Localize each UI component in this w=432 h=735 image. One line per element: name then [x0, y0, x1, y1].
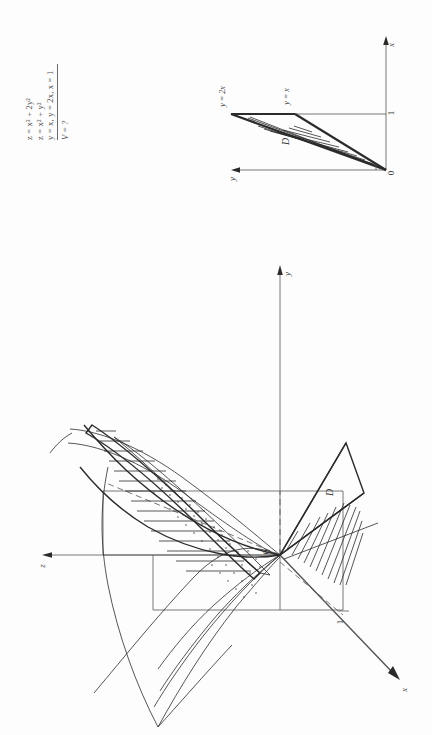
space-construction-lines [280, 493, 378, 559]
plane-diagram: x y 0 1 y = 2x y = x D [190, 18, 425, 213]
space-axis-x [280, 555, 400, 680]
space-region-label: D [324, 489, 335, 496]
plane-axis-x-label: x [386, 43, 396, 47]
plane-axis-y-label: y [227, 177, 237, 181]
space-paraboloid-outlines [68, 429, 280, 727]
space-origin-label: 0 [261, 550, 271, 555]
plane-tick-label-1: 1 [386, 111, 396, 116]
equation-answer: V = ? [60, 20, 70, 140]
plane-axis-x [383, 36, 389, 170]
space-diagram: y z x 0 1 D [8, 255, 432, 733]
space-region-D [280, 443, 364, 585]
plane-region-label: D [280, 138, 291, 145]
space-parabola-tails [50, 433, 232, 727]
space-band-hatching [96, 431, 251, 571]
plane-diagram-svg [190, 18, 425, 213]
equation-block: z = x² + 2y² z = x² + y² y = x, y = 2x, … [24, 20, 84, 140]
plane-axis-y [231, 167, 386, 173]
space-axis-z-label: z [37, 564, 47, 568]
plane-curve-lower-label: y = x [282, 88, 291, 105]
plane-region-D [231, 114, 386, 170]
plane-origin-label: 0 [386, 171, 396, 176]
space-axis-y-label: y [282, 272, 292, 276]
figure-page: z = x² + 2y² z = x² + y² y = x, y = 2x, … [0, 0, 432, 735]
space-diagram-svg [8, 255, 432, 733]
equation-line-3: y = x, y = 2x, x = 1 [45, 20, 56, 140]
equation-line-2: z = x² + y² [35, 20, 46, 140]
space-axis-x-label: x [399, 688, 409, 692]
plane-region-hatching [248, 117, 386, 170]
space-tick-label-1: 1 [335, 620, 345, 625]
plane-curve-upper-label: y = 2x [218, 86, 227, 107]
equation-line-1: z = x² + 2y² [24, 20, 35, 140]
equation-divider [57, 64, 58, 140]
